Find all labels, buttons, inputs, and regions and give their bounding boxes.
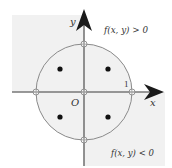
positive-region-label: f(x, y) > 0 [103, 25, 148, 35]
x-axis-label: x [150, 97, 156, 108]
sign-diagram: y x O 1 f(x, y) > 0 f(x, y) < 0 [0, 0, 172, 168]
y-axis-label: y [69, 16, 76, 27]
negative-region-label: f(x, y) < 0 [110, 148, 154, 158]
origin-label: O [71, 97, 79, 108]
unit-tick-label: 1 [124, 79, 129, 89]
